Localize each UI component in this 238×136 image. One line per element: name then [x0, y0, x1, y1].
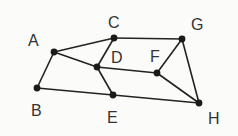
node-c [111, 35, 118, 42]
node-label-c: C [108, 14, 120, 31]
graph-diagram: ABCDEFGH [0, 0, 238, 136]
node-label-b: B [31, 102, 42, 119]
edge-a-c [54, 38, 114, 52]
edge-a-d [54, 52, 97, 67]
edge-d-f [97, 67, 157, 73]
edge-c-g [114, 38, 182, 39]
node-label-g: G [191, 16, 203, 33]
node-label-d: D [111, 49, 123, 66]
node-label-f: F [150, 48, 160, 65]
edges-group [37, 38, 199, 103]
node-a [51, 49, 58, 56]
edge-e-h [113, 95, 199, 103]
node-label-h: H [208, 110, 220, 127]
edge-d-e [97, 67, 113, 95]
node-f [154, 70, 161, 77]
node-e [110, 92, 117, 99]
edge-a-b [37, 52, 54, 88]
edge-b-e [37, 88, 113, 95]
node-d [94, 64, 101, 71]
edge-f-g [157, 39, 182, 73]
node-g [179, 36, 186, 43]
node-label-e: E [107, 109, 118, 126]
node-h [196, 100, 203, 107]
node-b [34, 85, 41, 92]
node-label-a: A [28, 32, 39, 49]
